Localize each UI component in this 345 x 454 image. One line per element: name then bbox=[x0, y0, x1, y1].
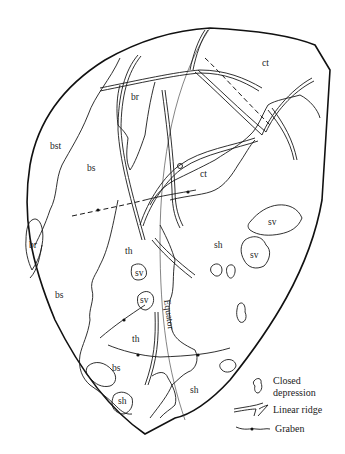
label-sv-east-2: sv bbox=[250, 250, 259, 260]
label-bst: bst bbox=[50, 141, 61, 151]
label-th-upper: th bbox=[125, 246, 133, 256]
label-bs-lower: bs bbox=[55, 290, 64, 300]
label-ct-central: ct bbox=[200, 169, 207, 179]
graben-dot bbox=[186, 190, 189, 193]
legend-label-graben: Graben bbox=[275, 423, 304, 434]
legend-label-linear-ridge: Linear ridge bbox=[273, 404, 323, 415]
legend-label-closed: Closed bbox=[273, 375, 301, 386]
equator-line bbox=[160, 28, 210, 420]
graben-dot bbox=[136, 353, 139, 356]
label-sv-center: sv bbox=[135, 268, 144, 278]
geologic-map: Equator bbox=[0, 0, 345, 454]
legend: Closed depression Linear ridge Graben bbox=[234, 375, 323, 434]
closed-depression bbox=[220, 359, 236, 372]
graben-dot bbox=[196, 353, 199, 356]
label-br-north: br bbox=[131, 92, 140, 102]
label-br-west: br bbox=[29, 240, 38, 250]
label-bs-upper: bs bbox=[87, 163, 96, 173]
label-sh-south: sh bbox=[190, 385, 199, 395]
graben-dashed-west bbox=[72, 200, 145, 216]
closed-depression bbox=[237, 303, 246, 322]
linear-ridges bbox=[100, 30, 314, 385]
boundary-bs-th bbox=[30, 200, 132, 414]
legend-label-depression: depression bbox=[273, 387, 316, 398]
boundary-bst-bs bbox=[35, 58, 120, 245]
graben-dot bbox=[122, 318, 125, 321]
label-sv-east-1: sv bbox=[268, 217, 277, 227]
label-sv-south: sv bbox=[140, 295, 149, 305]
graben-south bbox=[108, 345, 230, 357]
closed-depression bbox=[211, 264, 222, 276]
closed-depression-icon bbox=[253, 379, 261, 393]
closed-depression bbox=[227, 265, 236, 278]
map-outline bbox=[27, 28, 330, 434]
linear-ridge-icon bbox=[234, 403, 268, 416]
graben-dot bbox=[96, 208, 99, 211]
graben-icon bbox=[236, 427, 270, 431]
label-ct-north: ct bbox=[262, 58, 269, 68]
boundary-ct-sh bbox=[170, 140, 255, 200]
graben-dashed-northeast bbox=[205, 58, 270, 125]
label-sh-central: sh bbox=[214, 240, 223, 250]
label-bs-small: bs bbox=[112, 363, 121, 373]
label-sh-small: sh bbox=[118, 396, 127, 406]
label-th-lower: th bbox=[132, 334, 140, 344]
